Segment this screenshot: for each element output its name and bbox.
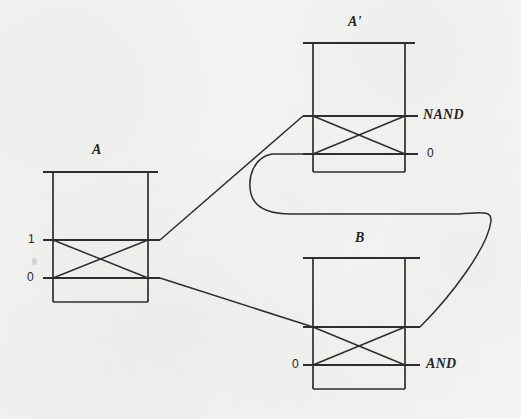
wire-a-lower-to-b-upper (160, 278, 313, 327)
gate-a-prime-output-nand-label: NAND (423, 108, 464, 122)
gate-a[interactable] (43, 172, 160, 302)
gate-a-label: A (92, 143, 102, 157)
gate-a-prime-label: A' (348, 15, 362, 29)
diagram-page: A A' B 1 0 NAND 0 0 AND (0, 0, 521, 419)
wire-a-upper-to-aprime-upper (160, 116, 303, 240)
gate-a-input-lower-label: 0 (27, 271, 34, 283)
gate-b-label: B (355, 231, 365, 245)
wire-feedback-aprime-lower-to-b-upper (250, 154, 491, 327)
gate-b-input-lower-label: 0 (292, 358, 299, 370)
gate-a-prime[interactable] (303, 43, 418, 172)
gate-b[interactable] (303, 258, 420, 389)
gate-b-output-and-label: AND (426, 357, 456, 371)
gate-a-prime-output-lower-label: 0 (427, 147, 434, 159)
gate-a-input-upper-label: 1 (28, 233, 35, 245)
